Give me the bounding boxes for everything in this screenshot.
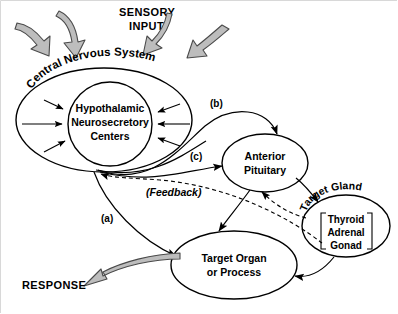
hypothalamus-line1: Hypothalamic (76, 102, 145, 114)
target-organ-node: Target Organ or Process (171, 231, 297, 299)
pathway-c-label: (c) (190, 151, 202, 162)
gland-item-thyroid: Thyroid (328, 214, 365, 225)
response-arrow (84, 253, 180, 286)
hypo-arrow-right-bottom (158, 138, 180, 146)
hypo-arrow-left-bottom (44, 141, 65, 152)
pathway-a: (a) (94, 172, 176, 256)
pituitary-ellipse (222, 134, 308, 192)
target-organ-line2: or Process (207, 266, 261, 278)
response-label: RESPONSE (22, 279, 86, 291)
sensory-arrow-1 (15, 23, 50, 56)
hypo-arrow-right-top (158, 104, 180, 112)
pathway-a-label: (a) (101, 213, 113, 224)
hypo-arrow-left-top (44, 100, 63, 109)
target-gland-node: Target Gland Thyroid Adrenal Gonad (297, 179, 390, 257)
hypothalamus-node: Hypothalamic Neurosecretory Centers (68, 82, 152, 166)
pathway-b-label: (b) (210, 98, 223, 109)
gland-bracket-left (321, 213, 326, 249)
pituitary-line2: Pituitary (244, 164, 286, 176)
gland-bracket-right (367, 213, 372, 249)
target-organ-ellipse (171, 231, 297, 299)
gland-item-adrenal: Adrenal (327, 227, 364, 238)
anterior-pituitary-node: Anterior Pituitary (222, 134, 308, 192)
pituitary-line1: Anterior (245, 150, 286, 162)
sensory-input-line2: INPUT (129, 20, 164, 32)
response-arrow-group: RESPONSE (22, 253, 180, 291)
neuroendocrine-diagram: SENSORY INPUT Central Nervous System Hyp… (0, 0, 398, 314)
hypothalamus-line2: Neurosecretory (71, 116, 149, 128)
gland-item-gonad: Gonad (330, 240, 362, 251)
sensory-input-arrows (15, 11, 229, 58)
target-organ-line1: Target Organ (201, 252, 266, 264)
hypothalamus-line3: Centers (90, 130, 129, 142)
diagram-canvas: SENSORY INPUT Central Nervous System Hyp… (0, 0, 398, 314)
gland-to-organ-arrow (295, 257, 334, 276)
sensory-arrow-4 (187, 25, 229, 58)
feedback-label: (Feedback) (146, 186, 202, 198)
